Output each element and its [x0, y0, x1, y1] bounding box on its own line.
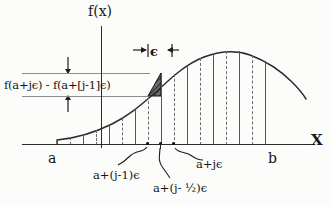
lower-bound-label: a — [48, 150, 56, 166]
ordinate-line — [122, 118, 123, 145]
leader-jm1 — [118, 147, 147, 165]
delta-guide-bottom — [22, 96, 148, 97]
ordinate-line — [265, 61, 266, 145]
x-label-j-minus-half: a+(j- ½)ϵ — [153, 181, 207, 195]
delta-guide-top — [22, 73, 150, 74]
x-tick-dot-j — [172, 142, 175, 145]
ordinate-line — [135, 108, 136, 145]
x-label-j: a+jϵ — [196, 157, 223, 171]
x-tick-jhalf-mark — [160, 143, 161, 149]
ordinate-line — [187, 65, 188, 145]
ordinate-line — [109, 125, 110, 145]
ordinate-line — [200, 58, 201, 145]
leader-jhalf — [159, 148, 170, 178]
ordinate-line — [239, 51, 240, 145]
x-tick-dot-jm1 — [146, 142, 149, 145]
ordinate-line — [174, 74, 175, 145]
upper-bound-label: b — [268, 150, 277, 166]
curve-and-shading-svg — [0, 0, 332, 206]
ordinate-line — [96, 130, 97, 145]
y-axis-label: f(x) — [88, 3, 112, 19]
ordinate-line — [226, 51, 227, 145]
delta-f-label: f(a+jϵ) - f(a+[j-1]ϵ) — [4, 78, 111, 92]
x-axis-label: X — [311, 131, 323, 149]
epsilon-label: ϵ — [150, 44, 158, 59]
x-label-j-minus-1: a+(j-1)ϵ — [93, 168, 140, 182]
ordinate-line — [252, 55, 253, 145]
figure-canvas: f(x) X a b f(a+jϵ) - f(a+[j-1]ϵ) ϵ a+(j-… — [0, 0, 332, 206]
ordinate-line — [148, 96, 149, 145]
ordinate-line — [161, 73, 162, 145]
ordinate-line — [213, 54, 214, 145]
x-axis — [22, 144, 312, 145]
